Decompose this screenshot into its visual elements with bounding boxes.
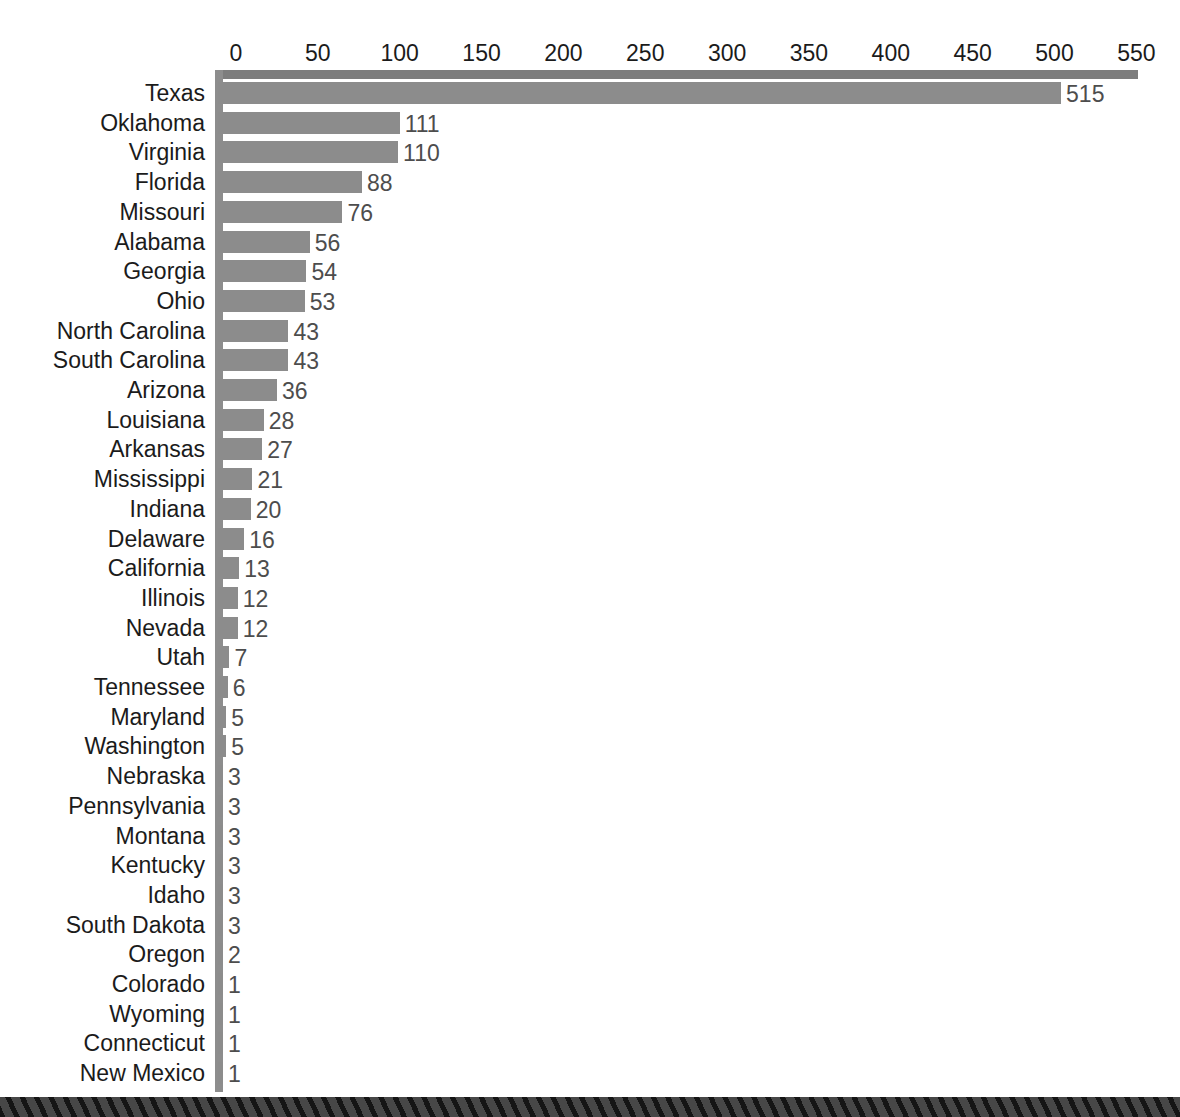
x-tick-label-50: 50 <box>305 40 331 67</box>
bar-north-carolina <box>218 320 288 342</box>
bar-oklahoma <box>218 112 400 134</box>
category-label-california: California <box>108 554 205 584</box>
x-tick-label-500: 500 <box>1035 40 1073 67</box>
bar-row: Arizona36 <box>0 376 1180 406</box>
bar-montana <box>218 825 223 847</box>
category-label-nebraska: Nebraska <box>107 762 205 792</box>
bar-row: South Carolina43 <box>0 346 1180 376</box>
bar-row: Oregon2 <box>0 940 1180 970</box>
category-label-arkansas: Arkansas <box>109 435 205 465</box>
category-label-pennsylvania: Pennsylvania <box>68 792 205 822</box>
category-label-north-carolina: North Carolina <box>57 317 205 347</box>
category-label-montana: Montana <box>115 822 205 852</box>
category-label-delaware: Delaware <box>108 525 205 555</box>
bar-row: Virginia110 <box>0 138 1180 168</box>
bar-row: New Mexico1 <box>0 1059 1180 1089</box>
x-tick-label-550: 550 <box>1117 40 1155 67</box>
category-label-wyoming: Wyoming <box>109 1000 205 1030</box>
category-label-mississippi: Mississippi <box>94 465 205 495</box>
category-label-oregon: Oregon <box>128 940 205 970</box>
bar-row: Montana3 <box>0 822 1180 852</box>
bar-washington <box>218 735 226 757</box>
category-label-texas: Texas <box>145 79 205 109</box>
category-label-idaho: Idaho <box>147 881 205 911</box>
bar-value-south-carolina: 43 <box>293 346 319 376</box>
x-tick-label-350: 350 <box>790 40 828 67</box>
bar-value-nebraska: 3 <box>228 762 241 792</box>
bar-new-mexico <box>218 1062 223 1084</box>
bar-value-washington: 5 <box>231 732 244 762</box>
category-label-alabama: Alabama <box>114 228 205 258</box>
category-label-south-carolina: South Carolina <box>53 346 205 376</box>
bar-row: Arkansas27 <box>0 435 1180 465</box>
bar-delaware <box>218 528 244 550</box>
category-label-new-mexico: New Mexico <box>80 1059 205 1089</box>
category-label-utah: Utah <box>156 643 205 673</box>
bar-value-pennsylvania: 3 <box>228 792 241 822</box>
bar-row: Maryland5 <box>0 703 1180 733</box>
bar-illinois <box>218 587 238 609</box>
bar-alabama <box>218 231 310 253</box>
bar-row: California13 <box>0 554 1180 584</box>
bar-row: Missouri76 <box>0 198 1180 228</box>
bar-value-delaware: 16 <box>249 525 275 555</box>
bar-row: Utah7 <box>0 643 1180 673</box>
bar-value-utah: 7 <box>234 643 247 673</box>
bar-row: South Dakota3 <box>0 911 1180 941</box>
bar-value-idaho: 3 <box>228 881 241 911</box>
category-label-kentucky: Kentucky <box>110 851 205 881</box>
bar-row: Washington5 <box>0 732 1180 762</box>
chart-page: 050100150200250300350400450500550 Texas5… <box>0 0 1180 1117</box>
bar-south-carolina <box>218 349 288 371</box>
category-label-illinois: Illinois <box>141 584 205 614</box>
category-label-connecticut: Connecticut <box>84 1029 205 1059</box>
x-tick-label-300: 300 <box>708 40 746 67</box>
bar-value-illinois: 12 <box>243 584 269 614</box>
bar-row: Georgia54 <box>0 257 1180 287</box>
bar-value-mississippi: 21 <box>257 465 283 495</box>
category-label-oklahoma: Oklahoma <box>100 109 205 139</box>
category-label-virginia: Virginia <box>129 138 205 168</box>
x-tick-label-450: 450 <box>953 40 991 67</box>
x-tick-label-100: 100 <box>381 40 419 67</box>
bar-row: Connecticut1 <box>0 1029 1180 1059</box>
category-label-colorado: Colorado <box>112 970 205 1000</box>
bar-maryland <box>218 706 226 728</box>
bar-indiana <box>218 498 251 520</box>
bar-ohio <box>218 290 305 312</box>
cropped-title <box>0 0 1180 14</box>
bar-value-new-mexico: 1 <box>228 1059 241 1089</box>
bar-value-alabama: 56 <box>315 228 341 258</box>
bar-row: Illinois12 <box>0 584 1180 614</box>
x-tick-label-250: 250 <box>626 40 664 67</box>
category-label-tennessee: Tennessee <box>94 673 205 703</box>
bar-value-connecticut: 1 <box>228 1029 241 1059</box>
bar-colorado <box>218 973 223 995</box>
bar-texas <box>218 82 1061 104</box>
bar-tennessee <box>218 676 228 698</box>
bar-pennsylvania <box>218 795 223 817</box>
category-label-indiana: Indiana <box>130 495 205 525</box>
bar-idaho <box>218 884 223 906</box>
category-label-louisiana: Louisiana <box>107 406 205 436</box>
bar-value-kentucky: 3 <box>228 851 241 881</box>
bar-row: Kentucky3 <box>0 851 1180 881</box>
x-tick-label-0: 0 <box>230 40 243 67</box>
bar-value-arkansas: 27 <box>267 435 293 465</box>
bar-value-colorado: 1 <box>228 970 241 1000</box>
bar-value-wyoming: 1 <box>228 1000 241 1030</box>
bar-louisiana <box>218 409 264 431</box>
bar-mississippi <box>218 468 252 490</box>
bar-arizona <box>218 379 277 401</box>
bar-value-maryland: 5 <box>231 703 244 733</box>
category-label-arizona: Arizona <box>127 376 205 406</box>
bar-missouri <box>218 201 342 223</box>
category-label-florida: Florida <box>135 168 205 198</box>
footer-hatched-band <box>0 1097 1180 1117</box>
category-label-georgia: Georgia <box>123 257 205 287</box>
bar-row: Texas515 <box>0 79 1180 109</box>
bar-georgia <box>218 260 306 282</box>
bar-row: Florida88 <box>0 168 1180 198</box>
category-label-maryland: Maryland <box>110 703 205 733</box>
bar-kentucky <box>218 854 223 876</box>
